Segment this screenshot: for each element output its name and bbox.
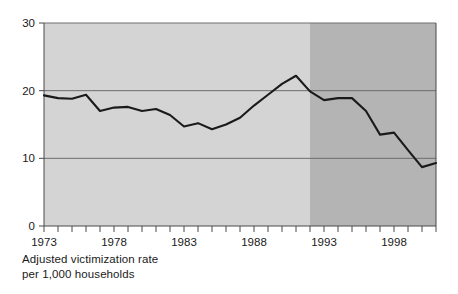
early-period-band	[44, 23, 310, 226]
x-tick-label-1978: 1978	[101, 236, 127, 248]
x-tick-label-1983: 1983	[171, 236, 197, 248]
y-axis-ticks	[39, 23, 44, 226]
chart-caption: Adjusted victimization rate per 1,000 ho…	[22, 252, 158, 282]
caption-line-2: per 1,000 households	[22, 267, 158, 282]
background-bands	[44, 23, 436, 226]
y-axis-tick-labels: 0102030	[22, 17, 35, 232]
y-tick-label-20: 20	[22, 85, 35, 97]
y-tick-label-30: 30	[22, 17, 35, 29]
x-tick-label-1993: 1993	[311, 236, 337, 248]
chart-svg: 0102030 197319781983198819931998	[0, 0, 458, 294]
y-tick-label-10: 10	[22, 152, 35, 164]
caption-line-1: Adjusted victimization rate	[22, 252, 158, 267]
chart-container: 0102030 197319781983198819931998 Adjuste…	[0, 0, 458, 294]
x-axis-ticks	[44, 226, 436, 232]
x-tick-label-1998: 1998	[381, 236, 407, 248]
x-tick-label-1988: 1988	[241, 236, 267, 248]
y-tick-label-0: 0	[29, 220, 35, 232]
x-axis-tick-labels: 197319781983198819931998	[31, 236, 407, 248]
x-tick-label-1973: 1973	[31, 236, 57, 248]
